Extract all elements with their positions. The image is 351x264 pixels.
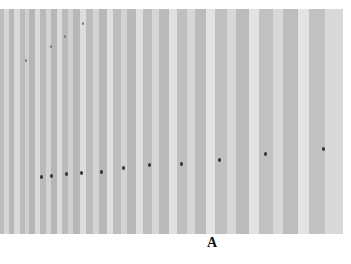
lane-stripe	[152, 9, 159, 234]
lane-stripe	[206, 9, 215, 234]
lane-stripe	[169, 9, 177, 234]
lane-stripe	[325, 9, 343, 234]
lane-stripe	[73, 9, 80, 234]
lane-stripe	[127, 9, 136, 234]
faint-spot	[64, 35, 66, 38]
lane-stripe	[99, 9, 107, 234]
band-spot	[218, 158, 221, 162]
band-spot	[100, 170, 103, 174]
lane-stripe	[195, 9, 206, 234]
gel-image	[0, 9, 343, 234]
band-spot	[65, 172, 68, 176]
lane-stripe	[159, 9, 169, 234]
band-spot	[40, 175, 43, 179]
lane-stripe	[143, 9, 152, 234]
faint-spot	[82, 22, 84, 25]
lane-stripe	[136, 9, 143, 234]
lane-stripe	[273, 9, 283, 234]
lane-stripe	[283, 9, 298, 234]
lane-stripe	[236, 9, 249, 234]
lane-stripe	[309, 9, 325, 234]
lane-stripe	[215, 9, 227, 234]
lane-stripe	[298, 9, 309, 234]
faint-spot	[25, 59, 27, 62]
band-spot	[180, 162, 183, 166]
band-spot	[80, 171, 83, 175]
band-spot	[264, 152, 267, 156]
lane-stripe	[187, 9, 195, 234]
lane-stripes	[0, 9, 343, 234]
lane-stripe	[86, 9, 93, 234]
band-spot	[122, 166, 125, 170]
lane-stripe	[259, 9, 273, 234]
lane-stripe	[249, 9, 259, 234]
lane-stripe	[227, 9, 236, 234]
panel-label: A	[203, 235, 221, 251]
lane-stripe	[177, 9, 187, 234]
lane-stripe	[113, 9, 121, 234]
band-spot	[50, 174, 53, 178]
faint-spot	[50, 45, 52, 48]
band-spot	[322, 147, 325, 151]
band-spot	[148, 163, 151, 167]
